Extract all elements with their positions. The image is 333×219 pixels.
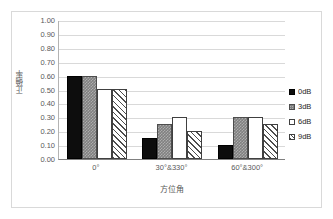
y-axis-tick-label: 0.00 <box>40 156 55 164</box>
bar-9dB-30°&330° <box>187 131 202 159</box>
bar-6dB-30°&330° <box>172 117 187 159</box>
y-axis-tick-label: 0.80 <box>40 45 55 53</box>
chart-legend: 0dB3dB6dB9dB <box>289 84 323 144</box>
y-axis-tick-label: 0.30 <box>40 114 55 122</box>
bar-9dB-0° <box>112 89 127 159</box>
legend-swatch-icon-9dB <box>289 134 295 140</box>
y-axis-tick-label: 0.50 <box>40 87 55 95</box>
x-axis-tick-label: 60°&300° <box>209 163 285 173</box>
x-axis-title: 方位角 <box>58 183 285 194</box>
legend-item-9dB[interactable]: 9dB <box>289 129 323 144</box>
x-axis-tick-label: 30°&330° <box>134 163 210 173</box>
bar-3dB-0° <box>82 76 97 159</box>
bar-3dB-30°&330° <box>157 124 172 159</box>
legend-label: 6dB <box>298 118 311 126</box>
legend-item-0dB[interactable]: 0dB <box>289 84 323 99</box>
bar-group <box>135 21 211 159</box>
bar-0dB-0° <box>67 76 82 159</box>
bar-group <box>59 21 135 159</box>
legend-swatch-icon-6dB <box>289 119 295 125</box>
y-axis-tick-label: 0.10 <box>40 142 55 150</box>
legend-item-3dB[interactable]: 3dB <box>289 99 323 114</box>
x-axis-tick-labels: 0°30°&330°60°&300° <box>58 163 285 177</box>
y-axis-tick-label: 0.90 <box>40 31 55 39</box>
bar-9dB-60°&300° <box>263 124 278 159</box>
legend-swatch-icon-0dB <box>289 89 295 95</box>
x-axis-tick-label: 0° <box>58 163 134 173</box>
y-axis-tick-label: 0.20 <box>40 128 55 136</box>
bar-6dB-0° <box>97 89 112 159</box>
bar-0dB-60°&300° <box>218 145 233 159</box>
legend-item-6dB[interactable]: 6dB <box>289 114 323 129</box>
y-axis-tick-label: 1.00 <box>40 17 55 25</box>
bar-6dB-60°&300° <box>248 117 263 159</box>
y-axis-tick-label: 0.70 <box>40 59 55 67</box>
legend-label: 0dB <box>298 88 311 96</box>
bar-3dB-60°&300° <box>233 117 248 159</box>
bar-0dB-30°&330° <box>142 138 157 159</box>
legend-swatch-icon-3dB <box>289 104 295 110</box>
legend-label: 9dB <box>298 133 311 141</box>
legend-label: 3dB <box>298 103 311 111</box>
bar-group <box>210 21 286 159</box>
y-axis-tick-labels: 1.000.900.800.700.600.500.400.300.200.10… <box>26 21 55 160</box>
y-axis-tick-label: 0.60 <box>40 73 55 81</box>
chart-figure: 正确率 1.000.900.800.700.600.500.400.300.20… <box>0 0 333 219</box>
y-axis-tick-label: 0.40 <box>40 100 55 108</box>
plot-area <box>58 21 285 160</box>
